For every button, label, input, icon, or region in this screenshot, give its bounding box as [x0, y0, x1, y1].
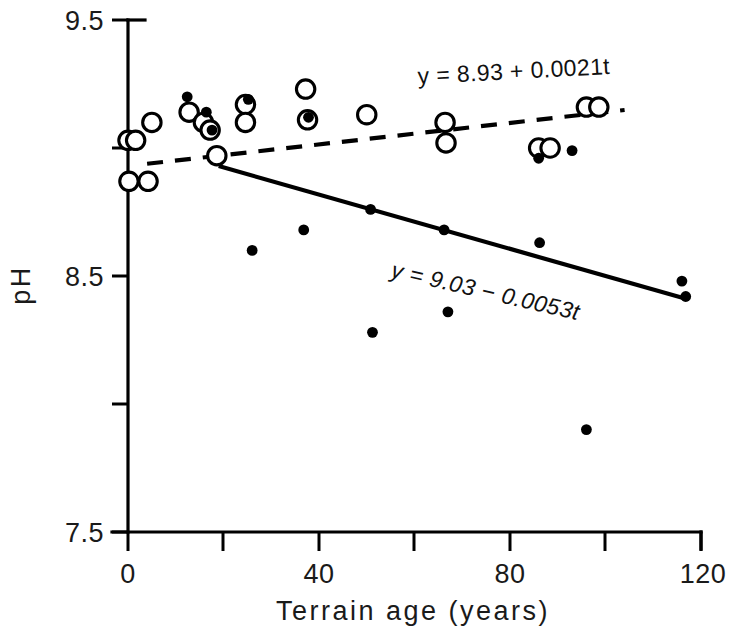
x-tick-labels: 0 40 80 120 [120, 559, 726, 589]
data-point [243, 94, 254, 105]
data-point [207, 125, 218, 136]
data-point [437, 134, 455, 152]
data-point [443, 306, 454, 317]
data-point [201, 107, 212, 118]
x-tick-label-1: 40 [303, 559, 334, 589]
y-tick-label-1: 8.5 [65, 262, 104, 292]
data-point [680, 291, 691, 302]
data-point [298, 225, 309, 236]
y-tick-label-0: 9.5 [65, 6, 104, 36]
data-point [120, 172, 138, 190]
data-point [590, 98, 608, 116]
data-point [358, 106, 376, 124]
data-point [534, 237, 545, 248]
y-tick-label-2: 7.5 [65, 518, 104, 548]
data-point [581, 424, 592, 435]
data-point [247, 245, 258, 256]
y-axis-ticks [112, 20, 128, 532]
x-axis-title: Terrain age (years) [276, 596, 550, 626]
x-axis-ticks [128, 532, 701, 551]
data-point [533, 153, 544, 164]
data-point [143, 113, 161, 131]
y-tick-labels: 9.5 8.5 7.5 [65, 6, 104, 548]
x-tick-label-3: 120 [680, 559, 727, 589]
x-tick-label-0: 0 [120, 559, 136, 589]
solid-equation-label: y = 9.03 − 0.0053t [387, 256, 584, 325]
data-point [541, 139, 559, 157]
data-point [139, 172, 157, 190]
dashed-equation-label: y = 8.93 + 0.0021t [417, 53, 611, 89]
data-point [126, 131, 144, 149]
y-axis-title: pH [6, 265, 36, 305]
data-point [208, 146, 226, 164]
data-point [182, 91, 193, 102]
data-point [367, 327, 378, 338]
equation-annotations-layer: y = 8.93 + 0.0021ty = 9.03 − 0.0053t [387, 53, 611, 326]
data-point [365, 204, 376, 215]
x-tick-label-2: 80 [494, 559, 525, 589]
data-point [296, 80, 314, 98]
data-point [567, 145, 578, 156]
data-point [677, 276, 688, 287]
scatter-plot-svg: 9.5 8.5 7.5 0 40 80 120 Terrain age (yea… [0, 0, 729, 631]
ph-vs-terrain-age-figure: 9.5 8.5 7.5 0 40 80 120 Terrain age (yea… [0, 0, 729, 631]
data-point [303, 112, 314, 123]
data-point [236, 113, 254, 131]
data-point [439, 225, 450, 236]
data-point [436, 113, 454, 131]
